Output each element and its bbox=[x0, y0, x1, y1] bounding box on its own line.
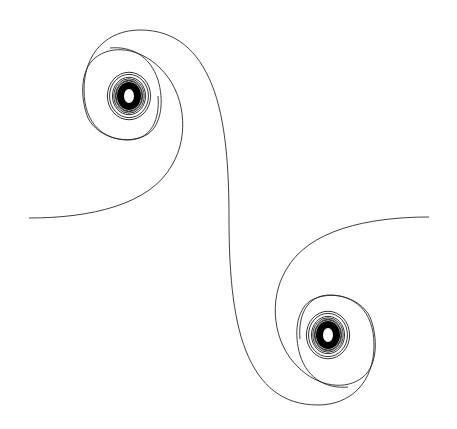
spiral-center-hole bbox=[124, 89, 134, 103]
upper-left-spiral bbox=[29, 30, 229, 218]
lower-right-spiral bbox=[229, 217, 429, 405]
upper-spiral-core bbox=[107, 72, 150, 120]
lower-spiral-core bbox=[306, 311, 349, 359]
spiral-center-hole bbox=[323, 328, 333, 342]
upper-main-curve bbox=[29, 30, 229, 218]
double-spiral-figure bbox=[0, 0, 457, 429]
